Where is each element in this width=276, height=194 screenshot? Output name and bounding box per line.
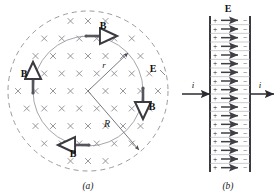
into-page-cross [59,106,64,111]
into-page-cross [77,106,82,111]
into-page-cross [138,123,143,128]
into-page-cross [68,53,73,58]
into-page-cross [129,71,134,76]
into-page-cross [85,158,90,163]
minus-charge: − [243,16,247,25]
into-page-cross [33,53,38,58]
into-page-cross [15,88,20,93]
minus-charge: − [243,129,247,138]
plus-charge: + [213,120,217,129]
into-page-cross [68,88,73,93]
into-page-cross [112,71,117,76]
plus-charge: + [213,146,217,155]
b-vector-bottom [59,143,91,146]
b-vector-right [141,86,144,118]
b-label-left: B [21,68,28,79]
physics-figure: r R B B B [0,0,276,194]
plus-charge: + [213,94,217,103]
minus-charge: − [243,77,247,86]
into-page-cross [68,18,73,23]
into-page-cross [59,71,64,76]
minus-charge: − [243,146,247,155]
b-label-top: B [100,20,107,31]
plus-charge: + [213,68,217,77]
into-page-cross [94,71,99,76]
minus-charge: − [243,137,247,146]
minus-charge: − [243,25,247,34]
panel-b-capacitor-side-view: E +−+−+−+−+−+−+−+−+−+−+−+−+−+−+−+−+−+− i… [180,0,276,194]
plus-charge: + [213,163,217,172]
radius-R-label: R [103,118,110,129]
panel-a-caption: (a) [82,181,93,192]
plus-charge: + [213,137,217,146]
b-vector-left [31,63,34,95]
b-vector-top [84,34,116,37]
into-page-cross [42,141,47,146]
plus-charge: + [213,16,217,25]
into-page-cross [77,71,82,76]
minus-charge: − [243,51,247,60]
capacitor-row-group: +−+−+−+−+−+−+−+−+−+−+−+−+−+−+−+−+−+− [210,16,250,172]
plus-charge: + [213,59,217,68]
into-page-cross [112,141,117,146]
minus-charge: − [243,103,247,112]
minus-charge: − [243,85,247,94]
minus-charge: − [243,59,247,68]
into-page-cross [24,106,29,111]
b-label-right: B [149,101,156,112]
into-page-cross [103,53,108,58]
minus-charge: − [243,42,247,51]
plus-charge: + [213,129,217,138]
current-label-right: i [259,80,262,90]
into-page-cross [129,106,134,111]
into-page-cross [59,36,64,41]
minus-charge: − [243,163,247,172]
minus-charge: − [243,94,247,103]
minus-charge: − [243,33,247,42]
current-label-left: i [192,80,195,90]
into-page-cross [68,158,73,163]
plus-charge: + [213,51,217,60]
into-page-cross [112,106,117,111]
minus-charge: − [243,155,247,164]
into-page-cross [50,53,55,58]
into-page-cross [42,106,47,111]
into-page-cross [68,123,73,128]
e-label-panel-b: E [225,3,232,14]
into-page-cross [155,88,160,93]
into-page-cross [50,88,55,93]
radius-r-label: r [102,60,106,70]
minus-charge: − [243,120,247,129]
plus-charge: + [213,25,217,34]
into-page-cross [50,123,55,128]
minus-charge: − [243,111,247,120]
plus-charge: + [213,111,217,120]
panel-a-circular-field: r R B B B [0,0,180,194]
plus-charge: + [213,42,217,51]
into-page-cross [120,88,125,93]
minus-charge: − [243,68,247,77]
into-page-cross [85,123,90,128]
into-page-cross [103,158,108,163]
into-page-cross [129,36,134,41]
plus-charge: + [213,33,217,42]
e-leader-panel-a [160,70,165,75]
into-page-cross [42,71,47,76]
panel-b-canvas: E +−+−+−+−+−+−+−+−+−+−+−+−+−+−+−+−+−+− i… [180,0,276,194]
radius-R-leader [88,91,139,150]
panel-a-canvas: r R B B B [0,0,180,194]
plus-charge: + [213,85,217,94]
b-label-bottom: B [70,148,77,159]
into-page-cross [138,53,143,58]
into-page-cross [94,106,99,111]
plus-charge: + [213,77,217,86]
into-page-cross [42,36,47,41]
into-page-cross [85,18,90,23]
into-page-cross [33,123,38,128]
into-page-cross [85,53,90,58]
plus-charge: + [213,155,217,164]
plus-charge: + [213,103,217,112]
into-page-cross [120,123,125,128]
into-page-cross [103,88,108,93]
e-label-panel-a: E [150,63,157,74]
